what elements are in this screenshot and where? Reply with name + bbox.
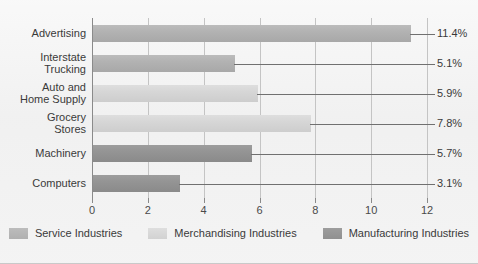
x-tick-label: 8 [312,204,318,216]
leader-line [310,124,435,125]
x-tick-label: 2 [145,204,151,216]
legend: Service IndustriesMerchandising Industri… [0,222,478,244]
category-label-line: Grocery [47,111,86,123]
category-label-line: Computers [32,177,86,189]
leader-line [234,64,435,65]
x-tick-mark [204,198,205,203]
legend-swatch [9,228,28,239]
legend-item: Service Industries [9,227,122,239]
category-label: Machinery [0,147,86,160]
category-label: GroceryStores [0,111,86,136]
bar [93,25,411,42]
bar [93,115,311,132]
gridline [260,18,261,198]
value-label: 5.1% [437,57,462,69]
value-label: 7.8% [437,117,462,129]
bar [93,145,252,162]
x-tick-label: 10 [365,204,377,216]
x-tick-label: 12 [421,204,433,216]
category-label-line: Auto and [42,81,86,93]
gridline [315,18,316,198]
bar [93,55,235,72]
category-label-line: Home Supply [20,93,86,105]
category-axis-labels: AdvertisingInterstateTruckingAuto andHom… [0,18,86,198]
gridline [427,18,428,198]
x-tick-mark [427,198,428,203]
category-label-line: Advertising [32,27,86,39]
x-tick-mark [371,198,372,203]
category-label-line: Stores [54,123,86,135]
x-tick-mark [260,198,261,203]
value-label: 5.9% [437,87,462,99]
category-label-line: Trucking [44,63,86,75]
legend-label: Merchandising Industries [174,227,296,239]
legend-swatch [148,228,167,239]
bar [93,175,180,192]
value-label: 5.7% [437,147,462,159]
category-label: Auto andHome Supply [0,81,86,106]
gridline [371,18,372,198]
gridline [148,18,149,198]
value-label: 3.1% [437,177,462,189]
legend-label: Service Industries [35,227,122,239]
plot-area: 024681012 [92,18,427,198]
category-label-line: Machinery [35,147,86,159]
value-label: 11.4% [437,27,467,39]
x-tick-mark [92,198,93,203]
x-tick-label: 0 [89,204,95,216]
bar [93,85,258,102]
x-tick-mark [315,198,316,203]
x-tick-mark [148,198,149,203]
bar-chart: AdvertisingInterstateTruckingAuto andHom… [0,0,478,264]
legend-label: Manufacturing Industries [349,227,469,239]
leader-line [179,184,435,185]
legend-item: Manufacturing Industries [323,227,469,239]
legend-swatch [323,228,342,239]
leader-line [251,154,435,155]
gridline [204,18,205,198]
leader-line [410,34,435,35]
legend-item: Merchandising Industries [148,227,296,239]
category-label: Advertising [0,27,86,40]
leader-line [257,94,435,95]
x-tick-label: 6 [256,204,262,216]
y-axis-line [92,18,93,198]
x-tick-label: 4 [201,204,207,216]
category-label-line: Interstate [40,51,86,63]
category-label: Computers [0,177,86,190]
category-label: InterstateTrucking [0,51,86,76]
